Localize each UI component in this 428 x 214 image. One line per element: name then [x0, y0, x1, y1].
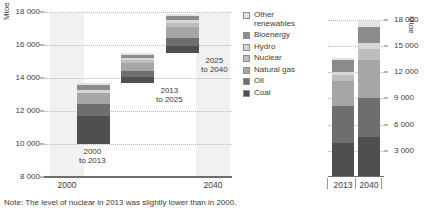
bar-segment: [121, 77, 154, 83]
chart-note: Note: The level of nuclear in 2013 was s…: [4, 198, 236, 207]
x-axis-line: [44, 176, 232, 177]
bar-segment: [166, 20, 199, 22]
y-tick-mark: [384, 46, 388, 47]
waterfall-bar-label-line: 2000: [79, 147, 106, 156]
bar-segment: [121, 53, 154, 55]
left-y-axis-title: Mtoe: [2, 2, 11, 20]
waterfall-bar-label-line: to 2013: [79, 156, 106, 165]
y-axis-tick-label: 14 000: [16, 74, 40, 82]
y-axis-tick-label: 6 000: [394, 121, 414, 129]
category-separator: [381, 178, 382, 189]
y-tick-mark: [384, 150, 388, 151]
waterfall-bar[interactable]: [121, 12, 154, 177]
waterfall-chart-panel: Mtoe 8 00010 00012 00014 00016 00018 000…: [0, 0, 238, 196]
bar-segment: [332, 143, 354, 177]
legend-item[interactable]: Coal: [243, 89, 315, 98]
waterfall-bar[interactable]: [166, 12, 199, 177]
bar-segment: [77, 93, 110, 105]
bar-segment: [121, 71, 154, 77]
legend-swatch-icon: [243, 90, 250, 97]
x-axis-tick-label: 2040: [360, 180, 379, 190]
waterfall-bar-label-line: to 2040: [201, 65, 228, 74]
y-tick-mark: [384, 124, 388, 125]
gridline: [44, 177, 232, 178]
bar-segment: [332, 106, 354, 143]
legend-item-label: Oil: [254, 77, 264, 86]
legend-swatch-icon: [243, 78, 250, 85]
y-axis-tick-label: 12 000: [394, 68, 418, 76]
bar-segment: [358, 27, 380, 44]
bar-segment: [358, 49, 380, 60]
bar-segment: [77, 85, 110, 90]
stacked-totals-chart-panel: Mtoe 3 0006 0009 00012 00015 00018 00020…: [322, 0, 428, 196]
bar-segment: [358, 21, 380, 27]
y-tick-mark: [40, 78, 44, 79]
stacked-bar[interactable]: [358, 12, 380, 177]
bar-segment: [332, 75, 354, 81]
legend-item[interactable]: Oil: [243, 77, 315, 86]
bar-segment: [121, 63, 154, 71]
legend-item-label: Natural gas: [254, 66, 295, 75]
x-axis-tick-label: 2000: [58, 180, 77, 190]
legend-item[interactable]: Other renewables: [243, 11, 315, 29]
bar-segment: [332, 81, 354, 106]
bar-segment: [166, 23, 199, 27]
legend-item-label: Hydro: [254, 43, 275, 52]
bar-segment: [77, 83, 110, 85]
legend-item-label: Coal: [254, 89, 270, 98]
left-plot-area: 8 00010 00012 00014 00016 00018 0002000t…: [44, 12, 232, 177]
y-tick-mark: [384, 98, 388, 99]
waterfall-bar-label: 2025to 2040: [201, 56, 228, 74]
legend-item-label: Bioenergy: [254, 31, 290, 40]
legend-item[interactable]: Hydro: [243, 43, 315, 52]
legend-swatch-icon: [243, 67, 250, 74]
y-tick-mark: [384, 19, 388, 20]
waterfall-bar-label-line: 2025: [201, 56, 228, 65]
bar-segment: [358, 43, 380, 48]
category-separator: [355, 178, 356, 189]
legend-swatch-icon: [243, 12, 250, 19]
bar-segment: [332, 60, 354, 72]
bar-segment: [166, 14, 199, 16]
bar-segment: [166, 27, 199, 39]
axis-highlight-band: [196, 12, 230, 177]
x-axis-tick-label: 2040: [204, 180, 223, 190]
legend-swatch-icon: [243, 32, 250, 39]
y-axis-tick-label: 15 000: [394, 42, 418, 50]
legend-item[interactable]: Natural gas: [243, 66, 315, 75]
y-tick-mark: [40, 12, 44, 13]
bar-segment: [77, 116, 110, 144]
y-axis-tick-label: 18 000: [394, 16, 418, 24]
bar-segment: [332, 58, 354, 60]
legend: Other renewablesBioenergyHydroNuclearNat…: [243, 11, 315, 100]
bar-segment: [358, 98, 380, 137]
y-axis-tick-label: 8 000: [20, 173, 40, 181]
y-axis-tick-label: 16 000: [16, 41, 40, 49]
bar-segment: [77, 90, 110, 92]
y-tick-mark: [40, 45, 44, 46]
bar-segment: [358, 137, 380, 177]
y-axis-tick-label: 18 000: [16, 8, 40, 16]
bar-segment: [77, 104, 110, 116]
x-axis-line: [328, 176, 384, 177]
y-tick-mark: [384, 72, 388, 73]
y-tick-mark: [40, 111, 44, 112]
bar-segment: [121, 58, 154, 60]
y-axis-tick-label: 9 000: [394, 94, 414, 102]
x-axis-tick-label: 2013: [334, 180, 353, 190]
legend-item[interactable]: Nuclear: [243, 54, 315, 63]
waterfall-bar-label: 2000to 2013: [79, 147, 106, 165]
legend-swatch-icon: [243, 44, 250, 51]
right-plot-area: 3 0006 0009 00012 00015 00018 0002013204…: [328, 12, 384, 177]
legend-item[interactable]: Bioenergy: [243, 31, 315, 40]
bar-segment: [121, 55, 154, 58]
bar-segment: [166, 38, 199, 45]
stacked-bar[interactable]: [332, 12, 354, 177]
bar-segment: [166, 16, 199, 20]
legend-item-label: Other renewables: [254, 11, 315, 29]
y-axis-tick-label: 3 000: [394, 147, 414, 155]
bar-segment: [121, 60, 154, 63]
category-separator: [327, 178, 328, 189]
bar-segment: [332, 72, 354, 75]
y-axis-tick-label: 10 000: [16, 140, 40, 148]
